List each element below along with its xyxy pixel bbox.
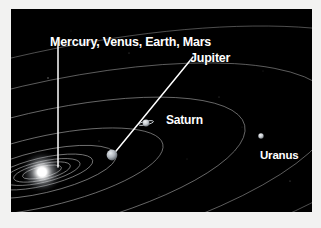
uranus-body [258,133,263,138]
saturn-body [143,120,150,127]
label-inner-planets: Mercury, Venus, Earth, Mars [50,36,211,49]
sun-core [37,167,46,176]
solar-system-figure: Mercury, Venus, Earth, Mars Jupiter Satu… [0,0,321,228]
label-uranus: Uranus [260,150,298,162]
sky-panel: Mercury, Venus, Earth, Mars Jupiter Satu… [11,9,312,212]
planet-jupiter [107,150,118,161]
label-jupiter: Jupiter [190,52,230,65]
jupiter-body [107,150,118,161]
label-saturn: Saturn [166,114,203,126]
planet-uranus [258,133,263,138]
